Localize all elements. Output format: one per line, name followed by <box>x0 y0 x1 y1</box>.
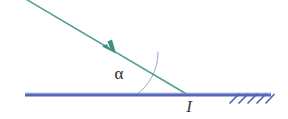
angle-label-alpha: α <box>106 63 132 85</box>
optics-ray-diagram: α I <box>0 0 288 119</box>
incident-ray-arrowhead <box>102 40 116 54</box>
angle-arc <box>136 52 158 95</box>
diagram-canvas <box>0 0 288 119</box>
incidence-point-label: I <box>179 96 199 118</box>
